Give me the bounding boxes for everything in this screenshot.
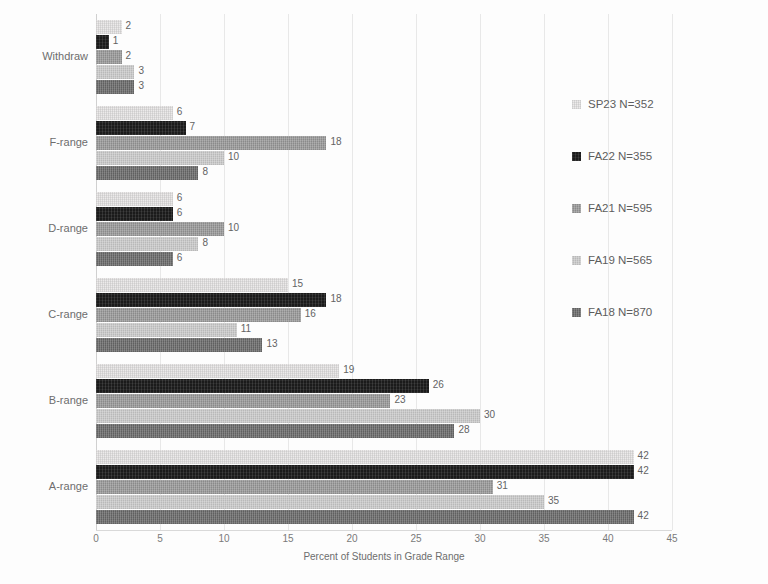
bar-value-label: 11 — [237, 322, 251, 336]
bar[interactable] — [96, 166, 198, 180]
bar[interactable] — [96, 480, 493, 494]
x-axis-title: Percent of Students in Grade Range — [96, 551, 672, 562]
bar-group-a-range: 4242313542 — [96, 450, 672, 525]
legend-label: FA21 N=595 — [588, 202, 652, 214]
bar[interactable] — [96, 50, 122, 64]
bar-value-label: 3 — [134, 79, 144, 93]
bar[interactable] — [96, 192, 173, 206]
bar-value-label: 6 — [173, 251, 183, 265]
bar-row: 42 — [96, 465, 672, 479]
x-axis-line — [96, 530, 672, 531]
bar[interactable] — [96, 308, 301, 322]
legend-label: SP23 N=352 — [588, 98, 654, 110]
bar[interactable] — [96, 293, 326, 307]
bar[interactable] — [96, 323, 237, 337]
legend-swatch-icon — [572, 308, 581, 317]
x-tick-label-25: 25 — [410, 533, 421, 544]
x-tick-label-30: 30 — [474, 533, 485, 544]
bar[interactable] — [96, 121, 186, 135]
bar[interactable] — [96, 450, 634, 464]
bar[interactable] — [96, 379, 429, 393]
bar[interactable] — [96, 222, 224, 236]
bar-value-label: 6 — [173, 191, 183, 205]
x-tick-label-35: 35 — [538, 533, 549, 544]
bar[interactable] — [96, 80, 134, 94]
legend-item-1[interactable]: FA22 N=355 — [572, 130, 762, 182]
bar-row: 42 — [96, 510, 672, 524]
bar-value-label: 7 — [186, 120, 196, 134]
bar-row: 1 — [96, 35, 672, 49]
bar-value-label: 19 — [339, 363, 354, 377]
legend-item-3[interactable]: FA19 N=565 — [572, 234, 762, 286]
chart-page: 2123367181086610861518161113192623302842… — [0, 0, 768, 584]
bar-value-label: 23 — [390, 393, 405, 407]
category-axis: WithdrawF-rangeD-rangeC-rangeB-rangeA-ra… — [0, 14, 88, 530]
bar-value-label: 2 — [122, 19, 132, 33]
bar-value-label: 30 — [480, 408, 495, 422]
bar-value-label: 42 — [634, 509, 649, 523]
bar[interactable] — [96, 207, 173, 221]
legend-swatch-icon — [572, 204, 581, 213]
bar-row: 2 — [96, 50, 672, 64]
bar-row: 35 — [96, 495, 672, 509]
bar[interactable] — [96, 237, 198, 251]
bar-value-label: 1 — [109, 34, 119, 48]
x-tick-label-45: 45 — [666, 533, 677, 544]
legend-item-2[interactable]: FA21 N=595 — [572, 182, 762, 234]
x-axis-ticks: 051015202530354045 — [96, 533, 672, 549]
bar-row: 26 — [96, 379, 672, 393]
legend-swatch-icon — [572, 152, 581, 161]
bar[interactable] — [96, 364, 339, 378]
bar-row: 19 — [96, 364, 672, 378]
bar[interactable] — [96, 106, 173, 120]
bar[interactable] — [96, 338, 262, 352]
bar-value-label: 15 — [288, 277, 303, 291]
bar-value-label: 6 — [173, 105, 183, 119]
bar-row: 3 — [96, 65, 672, 79]
bar-value-label: 18 — [326, 135, 341, 149]
bar-value-label: 13 — [262, 337, 277, 351]
category-label-f-range: F-range — [2, 136, 88, 148]
bar-value-label: 31 — [493, 479, 508, 493]
bar[interactable] — [96, 35, 109, 49]
legend-label: FA19 N=565 — [588, 254, 652, 266]
bar[interactable] — [96, 65, 134, 79]
category-label-withdraw: Withdraw — [2, 50, 88, 62]
legend-item-4[interactable]: FA18 N=870 — [572, 286, 762, 338]
bar[interactable] — [96, 394, 390, 408]
x-tick-label-40: 40 — [602, 533, 613, 544]
bar[interactable] — [96, 465, 634, 479]
x-tick-label-5: 5 — [157, 533, 163, 544]
category-label-a-range: A-range — [2, 480, 88, 492]
x-tick-label-0: 0 — [93, 533, 99, 544]
x-tick-label-15: 15 — [282, 533, 293, 544]
bar-value-label: 35 — [544, 494, 559, 508]
bar-row: 28 — [96, 424, 672, 438]
bar[interactable] — [96, 20, 122, 34]
bar-row: 30 — [96, 409, 672, 423]
x-tick-label-20: 20 — [346, 533, 357, 544]
bar-row: 13 — [96, 338, 672, 352]
bar-row: 42 — [96, 450, 672, 464]
bar-value-label: 28 — [454, 423, 469, 437]
bar[interactable] — [96, 495, 544, 509]
bar-value-label: 16 — [301, 307, 316, 321]
bar[interactable] — [96, 409, 480, 423]
bar[interactable] — [96, 151, 224, 165]
bar[interactable] — [96, 510, 634, 524]
bar[interactable] — [96, 252, 173, 266]
bar-value-label: 10 — [224, 221, 239, 235]
bar[interactable] — [96, 278, 288, 292]
bar[interactable] — [96, 424, 454, 438]
legend-item-0[interactable]: SP23 N=352 — [572, 78, 762, 130]
bar-value-label: 26 — [429, 378, 444, 392]
bar-value-label: 18 — [326, 292, 341, 306]
bar[interactable] — [96, 136, 326, 150]
legend-label: FA22 N=355 — [588, 150, 652, 162]
bar-value-label: 6 — [173, 206, 183, 220]
bar-value-label: 10 — [224, 150, 239, 164]
bar-value-label: 8 — [198, 165, 208, 179]
bar-row: 31 — [96, 480, 672, 494]
category-label-c-range: C-range — [2, 308, 88, 320]
bar-value-label: 3 — [134, 64, 144, 78]
